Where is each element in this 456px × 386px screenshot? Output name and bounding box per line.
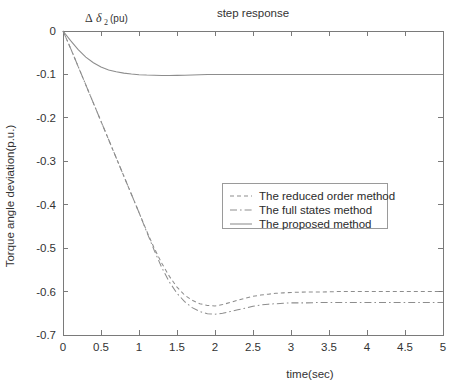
chart-figure: 00.511.522.533.544.55 0-0.1-0.2-0.3-0.4-… [0,0,456,386]
data-curves [63,31,443,314]
x-tick-label: 3.5 [321,341,337,353]
x-tick-label: 2 [212,341,218,353]
y-axis-label: Torque angle deviation(p.u.) [4,125,16,268]
x-tick-label: 1.5 [169,341,185,353]
y-tick-label: -0.2 [36,112,56,124]
annotation-delta: Δ [85,11,93,25]
x-axis-label: time(sec) [286,368,333,380]
x-axis-tick-labels: 00.511.522.533.544.55 [60,341,446,353]
x-tick-label: 2.5 [245,341,261,353]
y-axis-tick-labels: 0-0.1-0.2-0.3-0.4-0.5-0.6-0.7 [36,25,56,341]
y-tick-label: -0.1 [36,68,56,80]
legend-label[interactable]: The full states method [259,204,372,216]
y-tick-label: -0.3 [36,155,56,167]
y-tick-label: -0.4 [36,199,56,211]
chart-title: step response [217,7,289,19]
chart-legend: The reduced order methodThe full states … [223,184,396,231]
y-tick-label: -0.6 [36,286,56,298]
legend-label[interactable]: The proposed method [259,218,372,230]
step-response-chart: 00.511.522.533.544.55 0-0.1-0.2-0.3-0.4-… [0,0,456,386]
curve-the-full-states-method [63,31,443,314]
x-tick-label: 5 [440,341,446,353]
x-tick-label: 0.5 [93,341,109,353]
y-tick-label: 0 [50,25,56,37]
x-tick-label: 4 [364,341,371,353]
legend-label[interactable]: The reduced order method [259,190,395,202]
x-tick-label: 4.5 [397,341,413,353]
x-tick-label: 3 [288,341,294,353]
annotation-subscript: 2 [104,18,108,27]
x-tick-label: 0 [60,341,66,353]
y-axis-annotation: Δ δ 2 (pu) [85,11,128,27]
x-tick-label: 1 [136,341,142,353]
annotation-symbol: δ [96,11,102,25]
curve-the-proposed-method [63,31,443,76]
y-tick-label: -0.5 [36,242,56,254]
y-tick-label: -0.7 [36,329,56,341]
annotation-unit: (pu) [110,13,128,24]
